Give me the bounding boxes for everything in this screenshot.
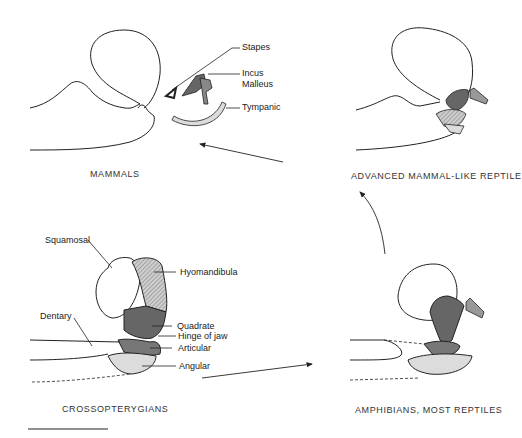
advanced-reptile-bones [436,88,488,134]
caption-crossopterygians: CROSSOPTERYGIANS [62,405,168,414]
label-quadrate: Quadrate [177,322,215,331]
mammals-ossicles [166,48,240,126]
label-hinge-of-jaw: Hinge of jaw [178,332,228,341]
arrow-to-mammals [200,144,283,162]
mammals-skull [30,30,160,150]
label-stapes: Stapes [242,43,270,52]
label-malleus: Malleus [242,80,273,89]
caption-mammals: MAMMALS [90,170,140,179]
caption-amphibians-most-reptiles: AMPHIBIANS, MOST REPTILES [355,406,502,415]
label-hyomandibula: Hyomandibula [180,268,238,277]
amphibian-jaw [350,264,484,380]
label-articular: Articular [178,344,211,353]
label-squamosal: Squamosal [45,236,90,245]
arrow-to-amphibians [202,364,312,378]
label-incus: Incus [242,69,264,78]
arrow-to-advanced [360,192,385,254]
label-dentary: Dentary [40,312,72,321]
label-angular: Angular [179,362,210,371]
caption-advanced-mammal-like-reptile: ADVANCED MAMMAL-LIKE REPTILE [351,172,522,181]
label-tympanic: Tympanic [242,103,281,112]
